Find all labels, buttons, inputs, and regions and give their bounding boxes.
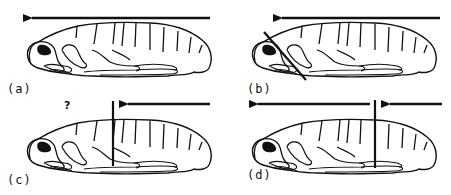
figure-canvas (0, 0, 451, 195)
pupa-drawing (27, 22, 211, 76)
panel-label-c: (c) (7, 173, 32, 187)
panel-label-b: (b) (247, 82, 272, 96)
question-mark-annotation: ? (64, 99, 70, 112)
pupa-drawing (27, 119, 211, 173)
panel-label-a: (a) (7, 82, 32, 96)
panel-b (252, 18, 440, 80)
panel-c (27, 101, 211, 174)
panel-label-d: (d) (247, 168, 272, 182)
pupa-drawing (252, 119, 436, 173)
panel-d (252, 100, 442, 174)
panel-a (27, 18, 211, 77)
